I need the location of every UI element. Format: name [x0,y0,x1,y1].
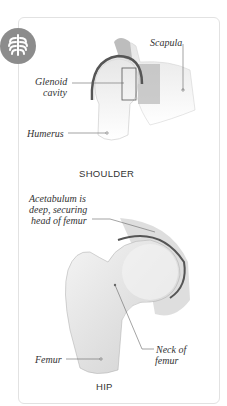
label-neck-line1: Neck of [156,344,186,355]
label-acetabulum-line3: head of femur [31,215,87,226]
caption-hip: HIP [96,381,113,392]
label-neck-line2: femur [155,355,178,366]
label-acetabulum-line2: deep, securing [29,204,87,215]
label-femur: Femur [35,354,62,365]
label-glenoid-line1: Glenoid [35,76,67,87]
label-acetabulum-line1: Acetabulum is [29,193,86,204]
label-humerus: Humerus [27,128,64,139]
caption-shoulder: SHOULDER [79,168,134,179]
shoulder-illustration [68,38,195,140]
label-glenoid-line2: cavity [43,87,67,98]
label-scapula: Scapula [150,37,182,48]
